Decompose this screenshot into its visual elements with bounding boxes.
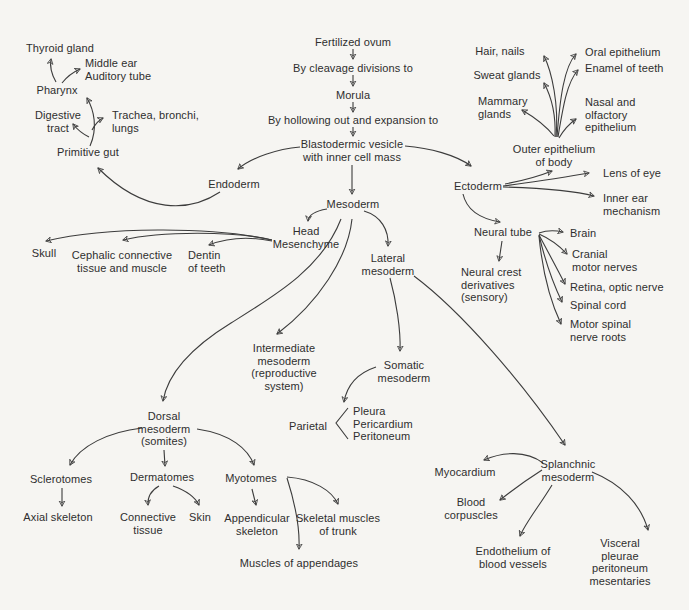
arrow-dermatomes-to-connective bbox=[148, 486, 159, 505]
node-blood-corpuscles: Blood corpuscles bbox=[444, 496, 498, 521]
node-myocardium: Myocardium bbox=[435, 466, 496, 479]
arrow-dermatomes-to-skin bbox=[173, 486, 199, 505]
arrow-splanchnic-to-endothelium bbox=[520, 485, 552, 536]
arrow-splanchnic-to-visceral bbox=[592, 472, 648, 530]
node-digestive-tract: Digestive tract bbox=[35, 109, 81, 134]
node-endothelium-blood-vessels: Endothelium of blood vessels bbox=[476, 545, 551, 570]
arrow-ectoderm-to-neural-tube bbox=[463, 194, 500, 222]
arrow-endoderm-to-primitive-gut bbox=[98, 168, 220, 206]
node-myotomes: Myotomes bbox=[225, 472, 277, 485]
arrow-mesenchyme-to-skull bbox=[46, 230, 272, 241]
node-retina-optic-nerve: Retina, optic nerve bbox=[570, 281, 664, 294]
node-pleura-pericardium-peritoneum: Pleura Pericardium Peritoneum bbox=[353, 405, 413, 443]
arrow-somatic-to-parietal-list bbox=[344, 367, 376, 402]
arrow-mesoderm-to-head-mesenchyme bbox=[308, 209, 327, 221]
node-neural-tube: Neural tube bbox=[474, 226, 532, 239]
node-cephalic-connective: Cephalic connective tissue and muscle bbox=[72, 249, 172, 274]
node-primitive-gut: Primitive gut bbox=[57, 146, 119, 159]
arrow-ectoderm-to-lens bbox=[503, 173, 589, 186]
arrow-blastoderm-to-endoderm bbox=[238, 147, 300, 169]
arrow-neuraltube-to-spinal-cord bbox=[539, 235, 562, 302]
arrow-outer-to-enamel bbox=[558, 70, 578, 137]
node-nasal-olfactory: Nasal and olfactory epithelium bbox=[585, 96, 636, 134]
arrow-neuraltube-to-retina bbox=[539, 235, 565, 284]
arrow-primitive-gut-to-pharynx bbox=[87, 98, 94, 146]
arrow-dorsal-to-sclerotomes bbox=[70, 428, 142, 465]
node-blastodermic-vesicle: Blastodermic vesicle with inner cell mas… bbox=[301, 138, 403, 163]
node-oral-epithelium: Oral epithelium bbox=[585, 46, 660, 59]
arrow-pharynx-to-thyroid bbox=[51, 59, 56, 82]
node-brain: Brain bbox=[570, 227, 596, 240]
node-mammary-glands: Mammary glands bbox=[478, 95, 528, 120]
node-motor-spinal-nerve-roots: Motor spinal nerve roots bbox=[570, 318, 631, 343]
node-enamel-of-teeth: Enamel of teeth bbox=[585, 62, 664, 75]
node-connective-tissue: Connective tissue bbox=[120, 511, 176, 536]
node-intermediate-mesoderm: Intermediate mesoderm (reproductive syst… bbox=[251, 342, 317, 392]
node-hair-nails: Hair, nails bbox=[475, 45, 524, 58]
node-pharynx: Pharynx bbox=[36, 84, 77, 97]
node-axial-skeleton: Axial skeleton bbox=[23, 511, 92, 524]
arrow-myotomes-to-skeletal-trunk bbox=[287, 477, 338, 504]
node-neural-crest: Neural crest derivatives (sensory) bbox=[461, 266, 522, 304]
node-inner-ear-mechanism: Inner ear mechanism bbox=[603, 192, 660, 217]
node-middle-ear-auditory-tube: Middle ear Auditory tube bbox=[85, 57, 151, 82]
node-skull: Skull bbox=[32, 247, 56, 260]
node-visceral-pleurae: Visceral pleurae peritoneum mesentaries bbox=[586, 537, 655, 587]
node-thyroid-gland: Thyroid gland bbox=[26, 42, 94, 55]
node-dermatomes: Dermatomes bbox=[130, 471, 194, 484]
arrow-outer-to-nasal bbox=[559, 119, 576, 138]
arrow-mesoderm-to-lateral bbox=[364, 211, 388, 246]
arrow-splanchnic-to-blood-corpuscles bbox=[500, 470, 542, 500]
node-parietal: Parietal bbox=[289, 420, 327, 433]
germ-layer-flowchart: Fertilized ovum By cleavage divisions to… bbox=[0, 0, 689, 610]
arrow-dorsal-to-myotomes bbox=[197, 429, 254, 465]
node-skeletal-muscles-of-trunk: Skeletal muscles of trunk bbox=[296, 512, 380, 537]
arrow-mesenchyme-to-cephalic bbox=[123, 233, 272, 240]
node-outer-epithelium: Outer epithelium of body bbox=[513, 143, 595, 168]
node-dorsal-mesoderm: Dorsal mesoderm (somites) bbox=[138, 410, 191, 448]
node-morula: Morula bbox=[336, 89, 370, 102]
node-muscles-of-appendages: Muscles of appendages bbox=[240, 557, 358, 570]
arrow-neuraltube-to-brain bbox=[539, 231, 563, 233]
arrow-mesenchyme-to-dentin bbox=[209, 238, 272, 245]
arrow-blastoderm-to-ectoderm bbox=[405, 146, 471, 166]
node-lens-of-eye: Lens of eye bbox=[603, 167, 661, 180]
parietal-brace bbox=[336, 408, 348, 439]
arrow-ectoderm-to-inner-ear bbox=[503, 187, 594, 196]
node-spinal-cord: Spinal cord bbox=[570, 299, 626, 312]
node-trachea-bronchi-lungs: Trachea, bronchi, lungs bbox=[112, 109, 199, 134]
node-dentin-of-teeth: Dentin of teeth bbox=[188, 249, 226, 274]
node-by-hollowing: By hollowing out and expansion to bbox=[268, 114, 438, 127]
arrow-splanchnic-to-myocardium bbox=[484, 454, 543, 463]
node-cranial-motor-nerves: Cranial motor nerves bbox=[572, 248, 637, 273]
node-mesoderm: Mesoderm bbox=[327, 198, 380, 211]
arrow-lateral-to-somatic bbox=[390, 278, 400, 351]
node-sweat-glands: Sweat glands bbox=[473, 69, 540, 82]
node-lateral-mesoderm: Lateral mesoderm bbox=[362, 252, 415, 277]
node-appendicular-skeleton: Appendicular skeleton bbox=[224, 512, 289, 537]
node-ectoderm: Ectoderm bbox=[454, 180, 502, 193]
arrow-dorsal-to-dermatomes bbox=[164, 450, 165, 466]
arrow-outer-to-sweat-glands bbox=[544, 83, 555, 137]
arrow-myotomes-to-appendicular bbox=[252, 489, 256, 505]
node-by-cleavage: By cleavage divisions to bbox=[293, 62, 413, 75]
arrow-pharynx-to-middle-ear bbox=[62, 69, 80, 83]
node-fertilized-ovum: Fertilized ovum bbox=[315, 36, 391, 49]
node-endoderm: Endoderm bbox=[208, 178, 260, 191]
node-splanchnic-mesoderm: Splanchnic mesoderm bbox=[541, 458, 596, 483]
node-sclerotomes: Sclerotomes bbox=[30, 473, 92, 486]
node-skin: Skin bbox=[189, 511, 211, 524]
node-head-mesenchyme: Head Mesenchyme bbox=[273, 225, 339, 250]
arrow-neural-tube-to-neural-crest bbox=[499, 241, 502, 261]
node-somatic-mesoderm: Somatic mesoderm bbox=[378, 359, 431, 384]
